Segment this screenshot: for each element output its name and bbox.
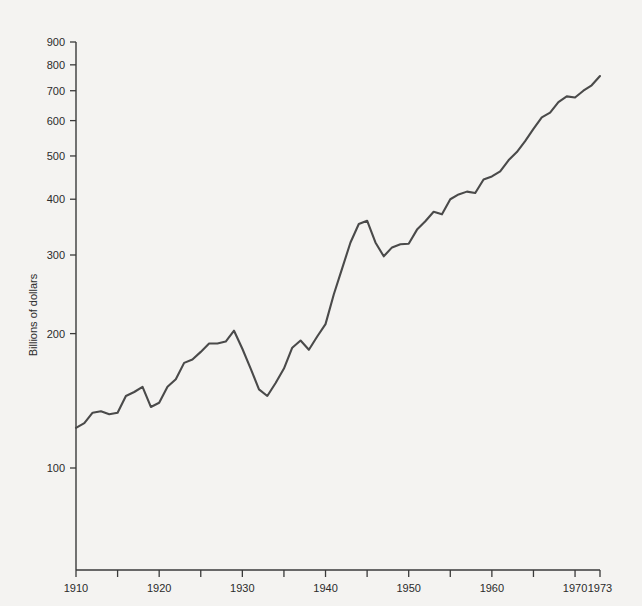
y-tick-label: 600 — [47, 115, 65, 127]
y-tick-label: 400 — [47, 193, 65, 205]
x-tick-label: 1930 — [230, 582, 254, 594]
chart-background — [0, 0, 642, 606]
chart-page: 100200300400500600700800900 191019201930… — [0, 0, 642, 606]
y-tick-label: 800 — [47, 59, 65, 71]
y-axis-title: Billions of dollars — [27, 273, 39, 356]
x-tick-label: 1910 — [64, 582, 88, 594]
x-tick-label: 1973 — [588, 582, 612, 594]
x-tick-label: 1960 — [480, 582, 504, 594]
y-tick-label: 700 — [47, 85, 65, 97]
y-tick-label: 500 — [47, 150, 65, 162]
y-tick-label: 300 — [47, 249, 65, 261]
y-tick-label: 900 — [47, 36, 65, 48]
x-tick-label: 1950 — [396, 582, 420, 594]
y-tick-label: 200 — [47, 328, 65, 340]
x-tick-label: 1970 — [563, 582, 587, 594]
x-tick-label: 1940 — [313, 582, 337, 594]
x-tick-label: 1920 — [147, 582, 171, 594]
y-tick-label: 100 — [47, 462, 65, 474]
line-chart: 100200300400500600700800900 191019201930… — [0, 0, 642, 606]
